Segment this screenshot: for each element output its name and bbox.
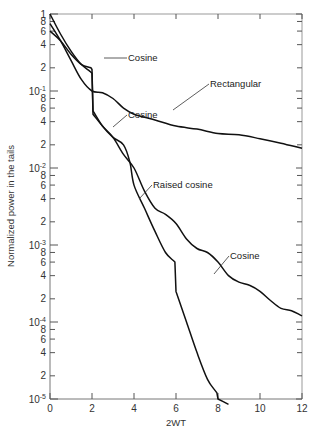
curve-annotations: CosineRectangularCosineRaised cosineCosi… — [104, 52, 261, 274]
plot-curves — [50, 14, 302, 404]
y-tick-label: 6 — [40, 26, 46, 37]
annotation-label-raised-cosine: Raised cosine — [153, 179, 213, 190]
annotation-leader-line — [139, 185, 152, 199]
y-tick-label: 6 — [40, 180, 46, 191]
curve-rectangular — [50, 24, 302, 149]
annotation-label-cosine: Cosine — [128, 52, 158, 63]
y-axis-ticks: 1864210-1864210-2864210-3864210-4864210-… — [29, 9, 302, 405]
y-tick-label: 4 — [40, 39, 46, 50]
y-tick-label: 4 — [40, 270, 46, 281]
x-tick-label: 8 — [215, 403, 221, 414]
curve-raised-cosine — [50, 31, 229, 404]
y-tick-label: 6 — [40, 257, 46, 268]
x-tick-label: 6 — [173, 403, 179, 414]
x-tick-label: 10 — [254, 403, 266, 414]
x-tick-label: 0 — [47, 403, 53, 414]
y-axis-title: Normalized power in the tails — [5, 145, 16, 267]
curve-cosine — [50, 14, 302, 316]
y-tick-label: 2 — [40, 62, 46, 73]
plot-axes — [50, 14, 302, 399]
annotation-label-cosine: Cosine — [230, 250, 260, 261]
annotation-label-cosine: Cosine — [128, 109, 158, 120]
y-tick-label: 4 — [40, 193, 46, 204]
x-tick-label: 4 — [131, 403, 137, 414]
tail-power-chart: 1864210-1864210-2864210-3864210-4864210-… — [0, 0, 317, 433]
y-tick-label: 2 — [40, 216, 46, 227]
x-axis-ticks: 024681012 — [47, 14, 308, 414]
y-tick-label: 4 — [40, 116, 46, 127]
y-tick-label: 6 — [40, 334, 46, 345]
y-tick-label: 2 — [40, 139, 46, 150]
x-axis-title: 2WT — [166, 417, 186, 428]
y-tick-label: 6 — [40, 103, 46, 114]
y-tick-label: 2 — [40, 293, 46, 304]
annotation-leader-line — [173, 84, 209, 110]
y-tick-label: 4 — [40, 347, 46, 358]
y-tick-label: 2 — [40, 370, 46, 381]
y-tick-label: 10-5 — [29, 393, 46, 405]
annotation-label-rectangular: Rectangular — [210, 78, 261, 89]
x-tick-label: 12 — [296, 403, 308, 414]
annotation-leader-line — [214, 256, 229, 274]
x-tick-label: 2 — [89, 403, 95, 414]
annotation-leader-line — [113, 115, 127, 127]
